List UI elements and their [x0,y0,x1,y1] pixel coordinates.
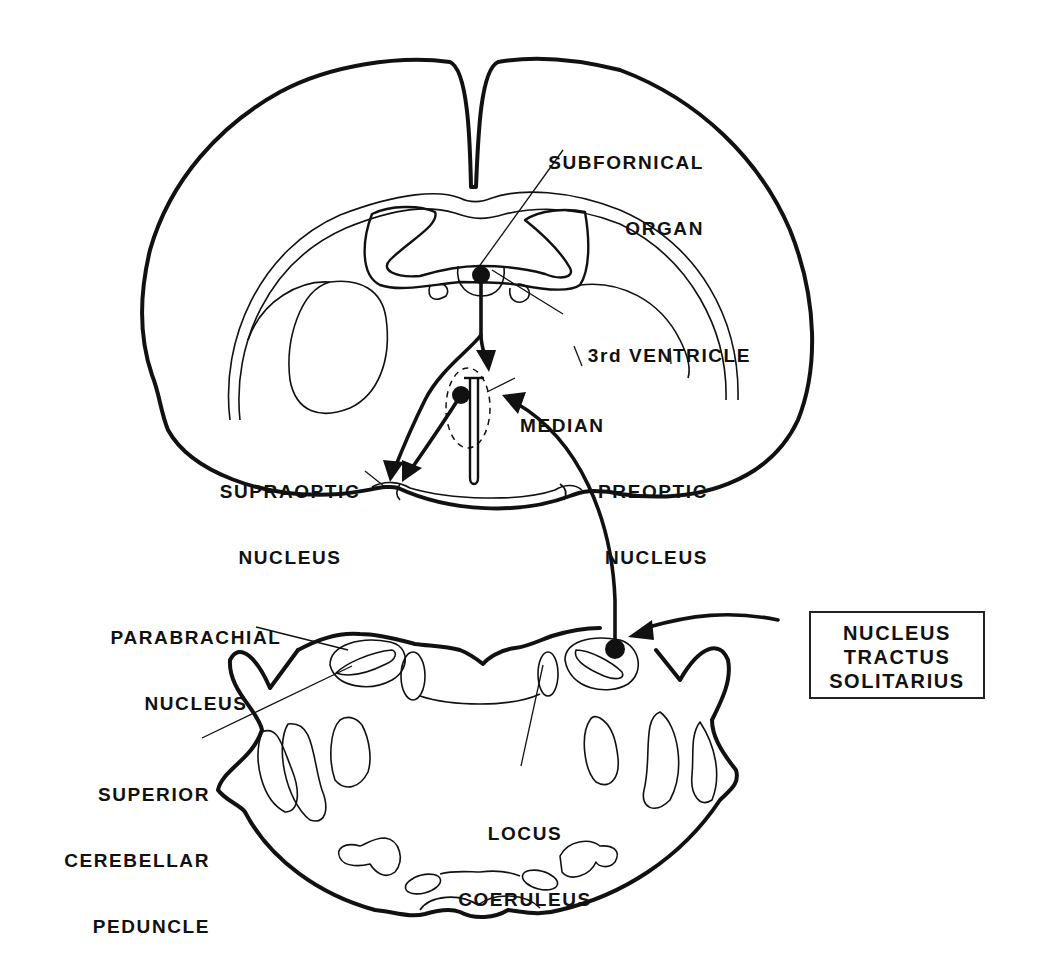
label-subfornical-organ-line2: ORGAN [404,218,704,240]
pathway-input-to-nts [645,615,778,628]
label-median-preoptic-nucleus: MEDIAN PREOPTIC NUCLEUS [420,371,708,591]
arrowhead-supraoptic-2 [402,460,422,482]
arrowhead-mnpo [476,350,496,372]
label-supraoptic-nucleus: SUPRAOPTIC NUCLEUS [210,437,370,591]
label-scp-line1: SUPERIOR [40,784,210,806]
pontine-lobe-left-3 [331,717,370,787]
label-subfornical-organ: SUBFORNICAL ORGAN [404,108,704,262]
label-locus-coeruleus-line1: LOCUS [440,823,610,845]
label-median-preoptic-line2: PREOPTIC [420,481,708,503]
label-supraoptic-line1: SUPRAOPTIC [210,481,370,503]
arrowhead-nts [628,620,654,640]
label-locus-coeruleus-line2: COERULEUS [440,889,610,911]
label-nts-line2: TRACTUS [819,645,975,669]
arrowhead-supraoptic-1 [383,460,404,482]
label-nts-line3: SOLITARIUS [819,669,975,693]
label-third-ventricle-text: 3rd VENTRICLE [588,345,751,366]
label-median-preoptic-line1: MEDIAN [420,415,708,437]
pontine-nuclei-left [339,838,401,875]
pontine-lobe-right-3 [584,717,618,785]
ventricle-floor-inner [420,694,540,704]
label-superior-cerebellar-peduncle: SUPERIOR CEREBELLAR PEDUNCLE [40,740,210,960]
pathway-sfo-to-mnpo [481,275,486,360]
label-median-preoptic-line3: NUCLEUS [420,547,708,569]
label-locus-coeruleus: LOCUS COERULEUS [440,779,610,933]
label-nucleus-tractus-solitarius: NUCLEUS TRACTUS SOLITARIUS [809,611,985,699]
pontine-lobe-right-2 [643,712,678,808]
label-third-ventricle: 3rd VENTRICLE [574,323,751,367]
label-supraoptic-line2: NUCLEUS [210,547,370,569]
parabrachial-region-right [565,638,638,690]
parabrachial-region-left [330,640,405,686]
label-subfornical-organ-line1: SUBFORNICAL [404,152,704,174]
superior-cerebellar-peduncle-left [336,650,395,675]
pontine-oval-left [403,871,442,898]
label-scp-line3: PEDUNCLE [40,916,210,938]
leader-locus-coeruleus [521,665,543,766]
pontine-lobe-left-1 [258,731,297,812]
label-parabrachial-line2: NUCLEUS [96,693,296,715]
pontine-lobe-left-2 [282,724,325,821]
label-nts-line1: NUCLEUS [819,621,975,645]
label-parabrachial-line1: PARABRACHIAL [96,627,296,649]
locus-coeruleus-left [401,652,425,700]
label-parabrachial-nucleus: PARABRACHIAL NUCLEUS [96,583,296,737]
striatum-left [289,281,387,413]
label-scp-line2: CEREBELLAR [40,850,210,872]
